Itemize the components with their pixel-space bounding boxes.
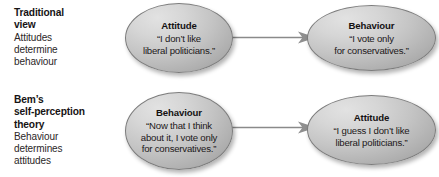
node-quote: “I vote only for conservatives.” <box>330 33 413 56</box>
label-sub-line2: determines <box>14 143 118 155</box>
arrow-row2-behaviour-to-attitude <box>222 118 318 136</box>
arrow-row1-attitude-to-behaviour <box>222 28 318 46</box>
node-title: Behaviour <box>156 107 202 118</box>
row-label-bem-self-perception-theory: Bem’s self-perception theory Behaviour d… <box>14 94 118 168</box>
label-sub-line3: attitudes <box>14 155 118 167</box>
node-row2-attitude: Attitude “I guess I don’t like liberal p… <box>307 95 436 165</box>
node-quote: “Now that I think about it, I vote only … <box>137 120 221 154</box>
node-row1-behaviour: Behaviour “I vote only for conservatives… <box>307 5 436 71</box>
label-heading-line3: theory <box>14 119 118 131</box>
node-title: Attitude <box>161 20 196 31</box>
label-heading-line1: Bem’s <box>14 94 118 106</box>
node-row2-behaviour: Behaviour “Now that I think about it, I … <box>125 92 233 170</box>
node-quote: “I guess I don’t like liberal politician… <box>330 125 414 148</box>
label-sub-line1: Attitudes <box>14 32 118 44</box>
label-sub-line2: determine <box>14 44 118 56</box>
row-label-traditional-view: Traditional view Attitudes determine beh… <box>14 7 118 68</box>
node-title: Behaviour <box>348 20 394 31</box>
label-sub-line1: Behaviour <box>14 131 118 143</box>
label-heading-line1: Traditional <box>14 7 118 19</box>
label-sub-line3: behaviour <box>14 56 118 68</box>
label-heading-line2: view <box>14 19 118 31</box>
node-row1-attitude: Attitude “I don’t like liberal politicia… <box>125 3 233 73</box>
node-quote: “I don’t like liberal politicians.” <box>139 33 219 56</box>
label-heading-line2: self-perception <box>14 106 118 118</box>
diagram-canvas: Traditional view Attitudes determine beh… <box>0 0 439 177</box>
node-title: Attitude <box>354 112 389 123</box>
